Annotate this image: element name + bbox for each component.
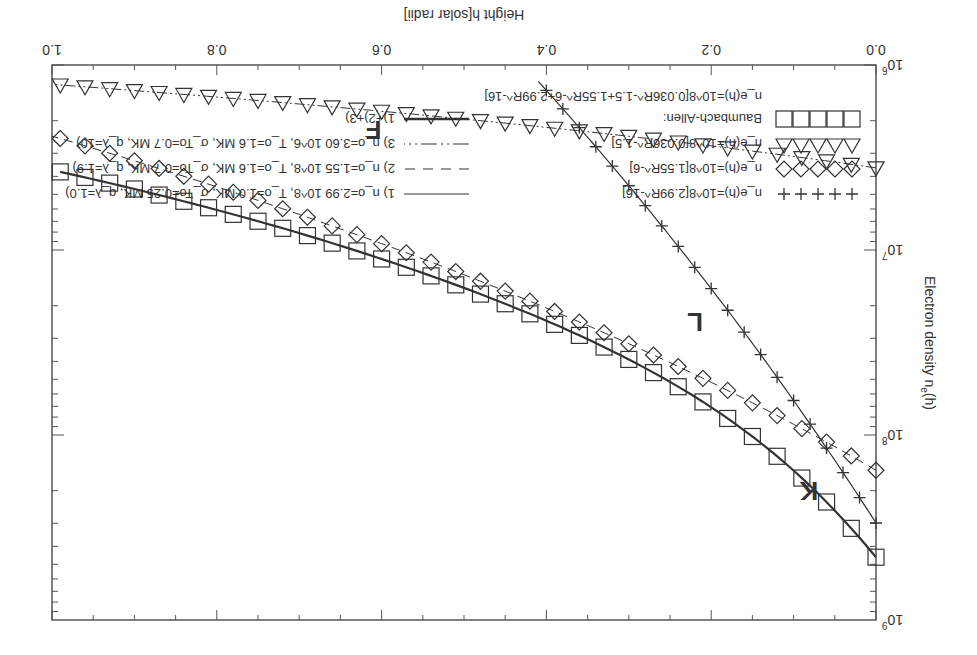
triangle-marker [151, 86, 167, 100]
x-axis-title: Height h[solar radii] [404, 7, 525, 23]
legend-right-item: 2) n_o=1.55 10^8, T_o=1.6 MK, σ_To=0.7 M… [73, 161, 395, 176]
y-axis-title-main: Electron density n [922, 276, 938, 387]
triangle-marker [250, 94, 266, 108]
diamond-marker [324, 218, 340, 234]
diamond-marker [52, 130, 68, 146]
square-marker [810, 111, 826, 127]
curve-sum-thick [60, 172, 876, 557]
plus-marker [829, 188, 841, 200]
axis-ticks: 0.00.20.40.60.81.0109108107106 [42, 42, 903, 631]
region-label-L: L [687, 307, 703, 337]
y-axis-title-tail: (h) [922, 393, 938, 410]
triangle-marker [225, 92, 241, 106]
plot-svg: 0.00.20.40.60.81.0109108107106 KLF n_e(h… [0, 0, 977, 655]
triangle-marker [102, 83, 118, 97]
plus-marker [788, 394, 800, 406]
plus-marker [705, 283, 717, 295]
region-label-K: K [799, 476, 818, 506]
svg-text:Electron density ne(h): Electron density ne(h) [919, 276, 938, 410]
triangle-marker [497, 117, 513, 131]
plus-marker [854, 492, 866, 504]
plus-marker [795, 188, 807, 200]
diamond-marker [646, 347, 662, 363]
triangle-marker [844, 139, 860, 153]
triangle-marker [126, 85, 142, 99]
plus-marker [812, 188, 824, 200]
plus-marker [771, 371, 783, 383]
diamond-marker [776, 161, 792, 177]
chart-figure: 0.00.20.40.60.81.0109108107106 KLF n_e(h… [0, 0, 977, 655]
triangle-marker [827, 139, 843, 153]
triangle-marker [201, 90, 217, 104]
plus-marker [837, 467, 849, 479]
plus-marker [672, 240, 684, 252]
legend-right-item: 3) n_o=3.60 10^6, T_o=1.6 MK, σ_To=0.7 M… [76, 136, 395, 151]
plus-marker [738, 326, 750, 338]
y-axis-title: Electron density ne(h) [919, 276, 938, 410]
diamond-marker [843, 448, 859, 464]
triangle-marker [522, 120, 538, 134]
x-tick-label: 0.4 [536, 42, 556, 58]
square-marker [844, 111, 860, 127]
x-tick-label: 1.0 [42, 42, 62, 58]
x-tick-label: 0.8 [207, 42, 227, 58]
x-tick-label: 0.2 [701, 42, 721, 58]
triangle-marker [810, 139, 826, 153]
square-marker [776, 111, 792, 127]
plus-marker [755, 349, 767, 361]
curves [52, 81, 876, 557]
triangle-marker [324, 101, 340, 115]
y-tick-label: 108 [882, 427, 904, 446]
diamond-marker [794, 421, 810, 437]
plus-marker [722, 304, 734, 316]
diamond-marker [522, 293, 538, 309]
square-marker [793, 111, 809, 127]
plus-marker [870, 517, 882, 529]
legend-left-item: n_e(h)=10^8[1.55R^-6] [629, 161, 762, 176]
triangle-marker [596, 128, 612, 142]
legend-left-item: Baumbach-Allen: [663, 111, 762, 126]
square-marker [827, 111, 843, 127]
legend-left-item: n_e(h)=10^8[0.036R^-1.5+1.55R^-6+2.99R^-… [484, 89, 762, 104]
legend-left-item: n_e(h)=10^8[2.99R^-16] [622, 186, 762, 201]
triangle-marker [793, 139, 809, 153]
x-tick-label: 0.0 [866, 42, 886, 58]
triangle-marker [176, 88, 192, 102]
legend-right-item: 1) n_o=2.99 10^8, T_o=1.0 MK, σ_To=0.25 … [65, 186, 395, 201]
triangle-marker [819, 155, 835, 169]
y-tick-label: 109 [882, 612, 904, 631]
plus-marker [778, 188, 790, 200]
triangle-marker [77, 81, 93, 95]
x-tick-label: 0.6 [372, 42, 392, 58]
plus-marker [846, 188, 858, 200]
legend-right-item: 1)+2)+3) [345, 111, 395, 126]
diamond-marker [670, 359, 686, 375]
legend-left-item: n_e(h)=10^8[0.036R^-1.5] [611, 136, 762, 151]
y-tick-label: 106 [882, 57, 904, 76]
triangle-marker [275, 97, 291, 111]
plus-marker [689, 261, 701, 273]
triangle-marker [52, 79, 68, 93]
y-tick-label: 107 [882, 242, 904, 261]
diamond-marker [547, 303, 563, 319]
